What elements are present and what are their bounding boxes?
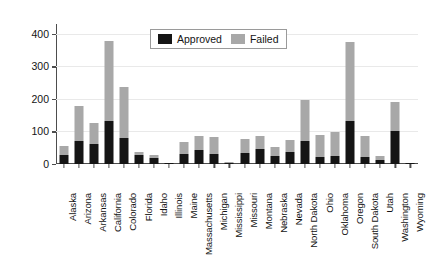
x-tick-mark (153, 164, 154, 168)
bar-segment-approved (300, 141, 309, 164)
x-tick-label-washington: Washington (399, 193, 410, 242)
legend-entry-failed: Failed (231, 33, 279, 45)
bar-segment-approved (134, 155, 143, 164)
x-tick-label-illinois: Illinois (173, 193, 184, 218)
bar-segment-approved (255, 149, 264, 164)
x-tick-label-north-dakota: North Dakota (308, 193, 319, 248)
x-tick-mark (169, 164, 170, 168)
x-tick-mark (395, 164, 396, 168)
stacked-bar[interactable] (376, 156, 385, 164)
x-tick-mark (334, 164, 335, 168)
chart-legend: Approved Failed (150, 29, 287, 49)
stacked-bar[interactable] (346, 42, 355, 164)
bar-segment-approved (104, 121, 113, 164)
bar-slot (403, 24, 418, 164)
stacked-bar[interactable] (210, 137, 219, 164)
x-tick-label-nebraska: Nebraska (278, 193, 289, 233)
stacked-bar[interactable] (74, 106, 83, 164)
x-tick-mark (78, 164, 79, 168)
x-tick-mark (380, 164, 381, 168)
y-tick-label: 300 (31, 60, 49, 72)
x-tick-label-utah: Utah (384, 193, 395, 213)
bar-segment-failed (59, 146, 68, 154)
stacked-bar[interactable] (240, 139, 249, 164)
bar-segment-approved (331, 156, 340, 164)
x-tick-mark (365, 164, 366, 168)
y-tick-label: 200 (31, 93, 49, 105)
x-tick-mark (93, 164, 94, 168)
x-tick-mark (199, 164, 200, 168)
legend-swatch-approved (158, 34, 172, 44)
bar-segment-approved (391, 131, 400, 164)
bar-segment-failed (195, 136, 204, 150)
bar-segment-failed (210, 137, 219, 154)
bar-segment-approved (210, 154, 219, 164)
stacked-bar[interactable] (119, 87, 128, 164)
bar-segment-failed (315, 135, 324, 157)
x-tick-label-massachusetts: Massachusetts (203, 193, 214, 255)
x-tick-label-missouri: Missouri (248, 193, 259, 228)
x-tick-label-colorado: Colorado (127, 193, 138, 231)
x-tick-label-idaho: Idaho (158, 193, 169, 216)
bar-slot (388, 24, 403, 164)
stacked-bar[interactable] (285, 140, 294, 164)
bar-segment-approved (74, 141, 83, 164)
bar-segment-failed (300, 100, 309, 141)
stacked-bar[interactable] (270, 147, 279, 164)
bar-segment-failed (74, 106, 83, 141)
bar-segment-approved (119, 138, 128, 164)
stacked-bar[interactable] (89, 123, 98, 164)
bar-segment-failed (270, 147, 279, 156)
stacked-bar[interactable] (331, 132, 340, 164)
bar-slot (71, 24, 86, 164)
x-tick-label-ohio: Ohio (324, 193, 335, 213)
bar-segment-failed (240, 139, 249, 153)
bar-segment-failed (119, 87, 128, 137)
bar-segment-failed (331, 132, 340, 156)
bar-segment-failed (346, 42, 355, 121)
bar-segment-approved (315, 157, 324, 164)
x-tick-label-california: California (112, 193, 123, 232)
x-tick-label-south-dakota: South Dakota (369, 193, 380, 249)
x-tick-mark (259, 164, 260, 168)
x-tick-label-maine: Maine (188, 193, 199, 218)
bar-segment-approved (59, 155, 68, 164)
x-tick-mark (350, 164, 351, 168)
stacked-bar[interactable] (59, 146, 68, 164)
bar-slot (343, 24, 358, 164)
x-tick-label-arizona: Arizona (82, 193, 93, 224)
bar-segment-failed (104, 41, 113, 121)
stacked-bar[interactable] (315, 135, 324, 164)
x-tick-label-montana: Montana (263, 193, 274, 229)
stacked-bar[interactable] (180, 142, 189, 164)
bar-segment-failed (180, 142, 189, 154)
x-tick-mark (123, 164, 124, 168)
x-tick-mark (410, 164, 411, 168)
stacked-bar[interactable] (150, 155, 159, 164)
stacked-bar[interactable] (255, 136, 264, 164)
stacked-bar[interactable] (361, 136, 370, 164)
x-tick-mark (138, 164, 139, 168)
bar-slot (56, 24, 71, 164)
x-tick-label-mississippi: Mississippi (233, 193, 244, 238)
x-tick-mark (108, 164, 109, 168)
legend-label-failed: Failed (250, 33, 279, 45)
x-tick-label-oregon: Oregon (354, 193, 365, 224)
stacked-bar[interactable] (195, 136, 204, 164)
bar-segment-failed (361, 136, 370, 157)
bar-segment-approved (270, 156, 279, 164)
stacked-bar[interactable] (104, 41, 113, 164)
bar-slot (328, 24, 343, 164)
y-tick-label: 0 (43, 158, 49, 170)
stacked-bar[interactable] (134, 152, 143, 164)
x-tick-mark (274, 164, 275, 168)
x-tick-label-michigan: Michigan (218, 193, 229, 230)
bar-segment-approved (361, 157, 370, 164)
bar-segment-approved (240, 153, 249, 164)
bar-segment-approved (285, 152, 294, 164)
x-tick-label-oklahoma: Oklahoma (339, 193, 350, 236)
stacked-bar[interactable] (300, 100, 309, 164)
stacked-bar[interactable] (391, 102, 400, 164)
bar-slot (86, 24, 101, 164)
